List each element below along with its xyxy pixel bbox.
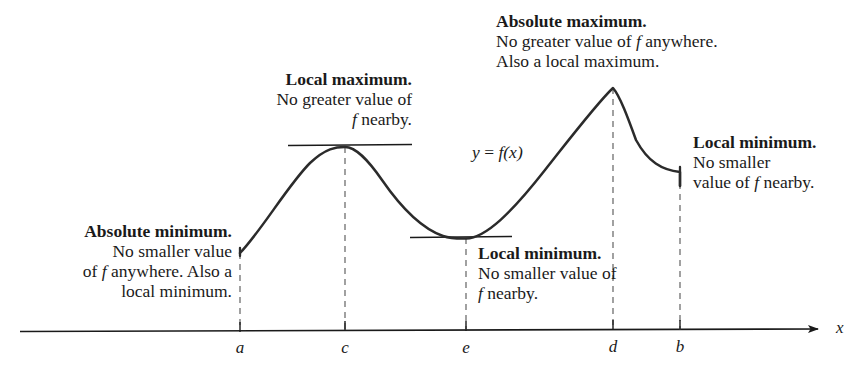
tick-label-d: d xyxy=(601,337,625,357)
function-label-eq-sign: = xyxy=(484,142,494,162)
annotation-local-minimum-endpoint-line-1: No smaller xyxy=(693,153,816,173)
annotation-absolute-minimum: Absolute minimum. No smaller value of f … xyxy=(32,222,232,302)
function-label-arg: (x) xyxy=(503,142,522,162)
function-label-y: y xyxy=(472,142,480,162)
annotation-local-maximum-heading: Local maximum. xyxy=(222,70,412,90)
annotation-absolute-minimum-line-2: of f anywhere. Also a xyxy=(32,262,232,282)
annotation-local-maximum-line-1: No greater value of xyxy=(222,90,412,110)
annotation-absolute-maximum: Absolute maximum. No greater value of f … xyxy=(496,12,718,72)
tick-label-b: b xyxy=(668,337,692,357)
x-axis-label: x xyxy=(836,318,844,338)
annotation-absolute-minimum-heading: Absolute minimum. xyxy=(32,222,232,242)
annotation-absolute-minimum-line-1: No smaller value xyxy=(32,242,232,262)
annotation-absolute-maximum-line-2: Also a local maximum. xyxy=(496,52,718,72)
x-axis-line xyxy=(20,329,818,332)
annotation-local-minimum-endpoint-heading: Local minimum. xyxy=(693,133,816,153)
annotation-local-maximum-line-2: f nearby. xyxy=(222,110,412,130)
calculus-extrema-diagram: a c e d b x y = f(x) Absolute minimum. N… xyxy=(0,0,860,372)
annotation-absolute-maximum-heading: Absolute maximum. xyxy=(496,12,718,32)
annotation-local-maximum: Local maximum. No greater value of f nea… xyxy=(222,70,412,130)
annotation-local-minimum-interior-heading: Local minimum. xyxy=(478,244,617,264)
annotation-absolute-maximum-line-1: No greater value of f anywhere. xyxy=(496,32,718,52)
tick-label-c: c xyxy=(333,338,357,358)
annotation-local-minimum-endpoint-line-2: value of f nearby. xyxy=(693,173,816,193)
annotation-local-minimum-interior: Local minimum. No smaller value of f nea… xyxy=(478,244,617,304)
annotation-local-minimum-interior-line-1: No smaller value of xyxy=(478,264,617,284)
tick-label-a: a xyxy=(228,338,252,358)
endpoint-stubs xyxy=(240,167,680,256)
annotation-absolute-minimum-line-3: local minimum. xyxy=(32,282,232,302)
annotation-local-minimum-endpoint: Local minimum. No smaller value of f nea… xyxy=(693,133,816,193)
function-label: y = f(x) xyxy=(472,142,523,163)
tick-label-e: e xyxy=(454,338,478,358)
tangent-line-at-c xyxy=(288,145,412,146)
annotation-local-minimum-interior-line-2: f nearby. xyxy=(478,284,617,304)
